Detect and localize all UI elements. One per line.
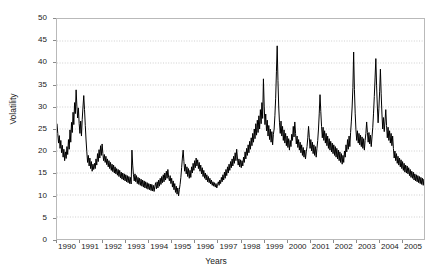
x-axis-title: Years: [0, 256, 446, 266]
x-tick-label: 2005: [404, 242, 422, 252]
x-tick-mark: [402, 240, 403, 243]
y-tick-label: 45: [38, 36, 47, 44]
y-tick-label: 40: [38, 58, 47, 66]
y-tick-label: 20: [38, 147, 47, 155]
x-tick-label: 1993: [127, 242, 145, 252]
y-tick-label: 30: [38, 103, 47, 111]
x-tick-mark: [125, 240, 126, 243]
x-tick-label: 2004: [381, 242, 399, 252]
volatility-line-path: [57, 46, 424, 196]
x-tick-mark: [148, 240, 149, 243]
y-axis-tick-labels: 05101520253035404550: [0, 0, 52, 278]
y-tick-label: 25: [38, 125, 47, 133]
x-axis-title-text: Years: [205, 256, 226, 266]
x-tick-mark: [356, 240, 357, 243]
x-tick-mark: [379, 240, 380, 243]
x-tick-mark: [310, 240, 311, 243]
x-tick-mark: [56, 240, 57, 243]
x-tick-mark: [333, 240, 334, 243]
plot-area: [56, 18, 425, 240]
x-tick-label: 1990: [58, 242, 76, 252]
x-tick-label: 1991: [81, 242, 99, 252]
x-tick-mark: [264, 240, 265, 243]
x-tick-mark: [217, 240, 218, 243]
volatility-series-line: [57, 19, 424, 239]
x-tick-mark: [194, 240, 195, 243]
y-tick-label: 35: [38, 81, 47, 89]
x-tick-mark: [287, 240, 288, 243]
x-axis-tick-labels: 1990199119921993199419951996199719981999…: [0, 242, 446, 256]
x-tick-mark: [102, 240, 103, 243]
x-tick-label: 2003: [358, 242, 376, 252]
y-tick-label: 50: [38, 14, 47, 22]
y-tick-label: 5: [43, 214, 47, 222]
volatility-chart-figure: Volatility 05101520253035404550 19901991…: [0, 0, 446, 278]
x-tick-mark: [241, 240, 242, 243]
x-tick-mark: [171, 240, 172, 243]
x-tick-label: 1999: [266, 242, 284, 252]
x-tick-label: 1995: [173, 242, 191, 252]
x-tick-label: 2002: [335, 242, 353, 252]
x-tick-label: 1998: [243, 242, 261, 252]
x-tick-label: 1992: [104, 242, 122, 252]
y-tick-label: 15: [38, 169, 47, 177]
x-tick-label: 2000: [289, 242, 307, 252]
x-tick-label: 1994: [150, 242, 168, 252]
x-tick-mark: [79, 240, 80, 243]
x-tick-label: 1997: [220, 242, 238, 252]
x-tick-label: 2001: [312, 242, 330, 252]
x-tick-label: 1996: [196, 242, 214, 252]
y-tick-label: 10: [38, 192, 47, 200]
